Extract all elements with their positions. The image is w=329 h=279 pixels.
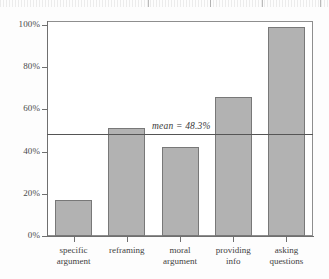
x-tick-mark: [127, 237, 128, 242]
y-tick-mark: [42, 194, 47, 195]
x-tick-label: specificargument: [47, 245, 100, 267]
y-tick-label: 60%: [4, 103, 40, 113]
mean-reference-line: [47, 134, 313, 135]
x-tick-label-line: argument: [153, 256, 206, 267]
scan-artifact-mark: [262, 0, 263, 7]
y-tick-mark: [42, 67, 47, 68]
y-axis: [47, 21, 48, 237]
bar: [268, 27, 305, 236]
y-tick-label-wrap: 100%: [0, 19, 40, 30]
x-tick-mark: [74, 237, 75, 242]
y-tick-label: 20%: [4, 188, 40, 198]
y-tick-label: 100%: [4, 19, 40, 29]
x-tick-label: moralargument: [153, 245, 206, 267]
bar: [108, 128, 145, 236]
y-tick-label: 40%: [4, 146, 40, 156]
x-tick-mark: [286, 237, 287, 242]
x-tick-label-line: argument: [47, 256, 100, 267]
y-tick-label-wrap: 60%: [0, 103, 40, 114]
y-tick-mark: [42, 109, 47, 110]
x-tick-label: providinginfo: [207, 245, 260, 267]
x-tick-label-line: info: [207, 256, 260, 267]
x-tick-mark: [233, 237, 234, 242]
x-tick-label-line: specific: [60, 245, 88, 255]
scan-artifact-mark: [210, 0, 211, 7]
mean-annotation-label: mean = 48.3%: [152, 121, 211, 131]
x-tick-label-line: asking: [275, 245, 299, 255]
x-tick-label-line: providing: [216, 245, 251, 255]
scan-artifact-mark: [320, 0, 321, 7]
x-tick-label: askingquestions: [260, 245, 313, 267]
bar: [215, 97, 252, 236]
y-tick-label-wrap: 20%: [0, 188, 40, 199]
scan-artifact-mark: [148, 0, 149, 7]
y-tick-label-wrap: 40%: [0, 146, 40, 157]
bar: [55, 200, 92, 236]
bar: [162, 147, 199, 236]
bar-chart-figure: 0%20%40%60%80%100% specificargumentrefra…: [0, 0, 329, 279]
scan-artifact-strip: [0, 0, 329, 7]
x-tick-label: reframing: [100, 245, 153, 256]
x-tick-label-line: reframing: [109, 245, 144, 255]
y-tick-label: 0%: [4, 230, 40, 240]
x-tick-mark: [180, 237, 181, 242]
y-tick-mark: [42, 152, 47, 153]
x-tick-label-line: moral: [169, 245, 190, 255]
x-tick-label-line: questions: [260, 256, 313, 267]
y-tick-mark: [42, 25, 47, 26]
y-tick-label-wrap: 80%: [0, 61, 40, 72]
y-tick-mark: [42, 236, 47, 237]
y-tick-label-wrap: 0%: [0, 230, 40, 241]
y-tick-label: 80%: [4, 61, 40, 71]
